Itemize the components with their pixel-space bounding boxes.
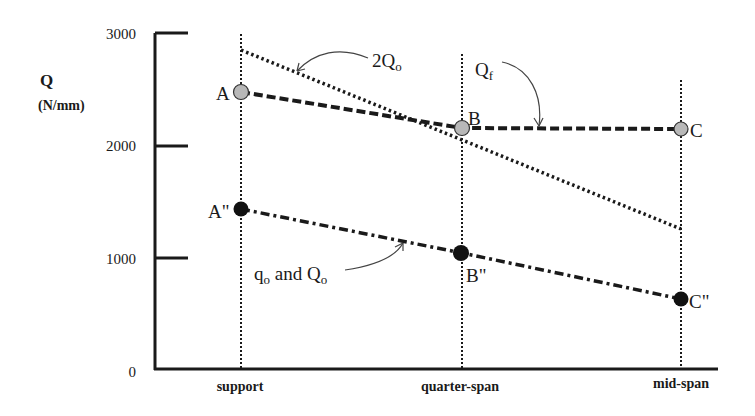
annotation-Qf: Qf [475,59,494,83]
x-label-support: support [217,379,264,394]
annotation-qo-and-Qo: qo and Qo [254,263,327,287]
label-A2: A" [208,201,229,222]
chart: Q (N/mm) 3000 2000 1000 0 support quarte… [0,0,755,416]
label-A: A [216,83,230,104]
y-tick-2000: 2000 [106,138,136,154]
annotation-2Qo-arrow [297,52,368,71]
label-B2: B" [466,265,486,286]
annotation-Qf-arrow [502,62,540,126]
point-A2 [234,202,249,217]
axes [154,33,718,370]
point-C2 [674,292,689,307]
annotation-2Qo: 2Qo [372,50,402,74]
point-C [674,122,688,136]
label-C2: C" [689,291,709,312]
y-tick-0: 0 [129,364,137,380]
point-A [234,85,249,100]
label-C: C [690,120,703,141]
y-axis-unit: (N/mm) [38,98,85,114]
point-B2 [453,245,469,261]
y-tick-1000: 1000 [106,251,136,267]
annotation-qo-Qo-arrow [345,243,403,270]
arrowhead-icon [395,243,403,251]
x-label-mid-span: mid-span [653,376,709,391]
label-B: B [468,108,481,129]
y-tick-3000: 3000 [106,26,136,42]
x-label-quarter-span: quarter-span [421,379,499,394]
y-axis-title: Q [40,71,53,90]
arrowhead-icon [534,118,543,126]
